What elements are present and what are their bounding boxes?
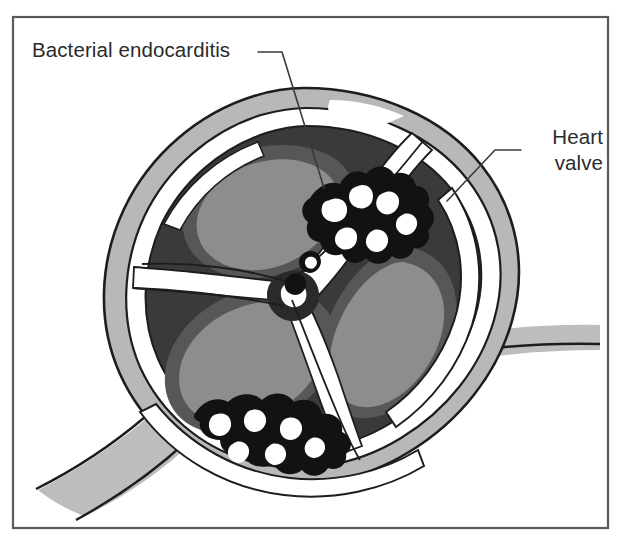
label-bacterial-endocarditis: Bacterial endocarditis [32, 38, 230, 61]
label-heart-valve-line2: valve [555, 151, 603, 174]
illustration-figure: Bacterial endocarditis Heart valve [0, 0, 622, 540]
label-heart-valve-line1: Heart [552, 125, 603, 148]
heart-valve-illustration: Bacterial endocarditis Heart valve [0, 0, 622, 540]
vegetation-upper-highlight-a [322, 198, 348, 222]
